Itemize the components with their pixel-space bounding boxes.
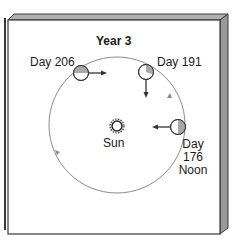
frame-right-side (220, 14, 228, 234)
diagram-title: Year 3 (96, 35, 131, 48)
frame-top-bevel (8, 14, 228, 20)
label-day-176: Day 176 Noon (178, 138, 208, 177)
planet-day-206-icon (74, 66, 89, 81)
planet-day-191-icon (139, 64, 154, 79)
label-day-191: Day 191 (157, 56, 202, 69)
label-day-176-line3: Noon (178, 164, 208, 177)
planet-day-176-icon (171, 120, 186, 135)
label-day-206: Day 206 (30, 56, 75, 69)
sun-label: Sun (103, 137, 124, 150)
